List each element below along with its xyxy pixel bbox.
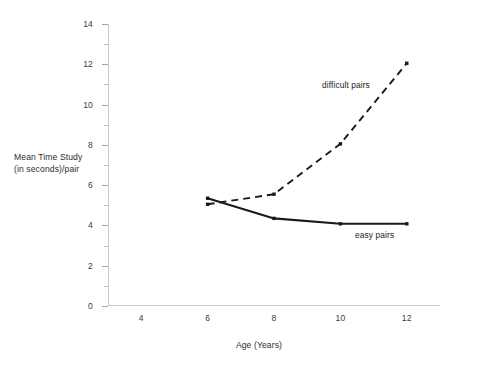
series-markers-difficult-pairs [206,62,409,206]
y-tick-label-12: 12 [83,59,93,69]
plot-area: 14 12 10 8 6 4 2 0 4 6 8 [108,24,440,306]
y-tick-14: 14 [102,24,108,25]
y-axis-title: Mean Time Study (in seconds)/pair [14,152,109,175]
y-tick-minor-11 [104,84,108,85]
x-tick-label-6: 6 [205,313,210,323]
y-tick-label-14: 14 [83,19,93,29]
series-line-difficult-pairs [208,63,407,204]
y-tick-minor-1 [104,286,108,287]
y-tick-minor-9 [104,125,108,126]
y-tick-6: 6 [102,185,108,186]
y-tick-2: 2 [102,266,108,267]
y-tick-label-8: 8 [88,140,93,150]
annotation-easy-pairs: easy pairs [355,230,394,240]
x-axis-line [108,305,440,306]
y-tick-label-4: 4 [88,220,93,230]
y-tick-12: 12 [102,64,108,65]
y-axis-line [108,24,109,306]
series-layer [108,24,440,306]
y-tick-minor-5 [104,205,108,206]
x-tick-label-12: 12 [402,313,412,323]
y-tick-label-10: 10 [83,100,93,110]
series-line-easy-pairs [208,198,407,224]
x-tick-label-8: 8 [272,313,277,323]
y-axis-title-line-2: (in seconds)/pair [14,164,109,176]
y-tick-minor-13 [104,44,108,45]
annotation-difficult-pairs: difficult pairs [322,80,370,90]
y-tick-10: 10 [102,105,108,106]
y-tick-label-2: 2 [88,261,93,271]
y-tick-minor-3 [104,246,108,247]
y-tick-label-0: 0 [88,301,93,311]
y-tick-label-6: 6 [88,180,93,190]
x-tick-label-10: 10 [335,313,345,323]
y-tick-8: 8 [102,145,108,146]
line-chart: Mean Time Study (in seconds)/pair 14 12 … [0,0,484,373]
y-axis-title-line-1: Mean Time Study [14,152,109,164]
x-tick-label-4: 4 [139,313,144,323]
y-tick-0: 0 [102,306,108,307]
y-tick-4: 4 [102,225,108,226]
x-axis-title: Age (Years) [0,340,484,350]
y-tick-minor-7 [104,165,108,166]
